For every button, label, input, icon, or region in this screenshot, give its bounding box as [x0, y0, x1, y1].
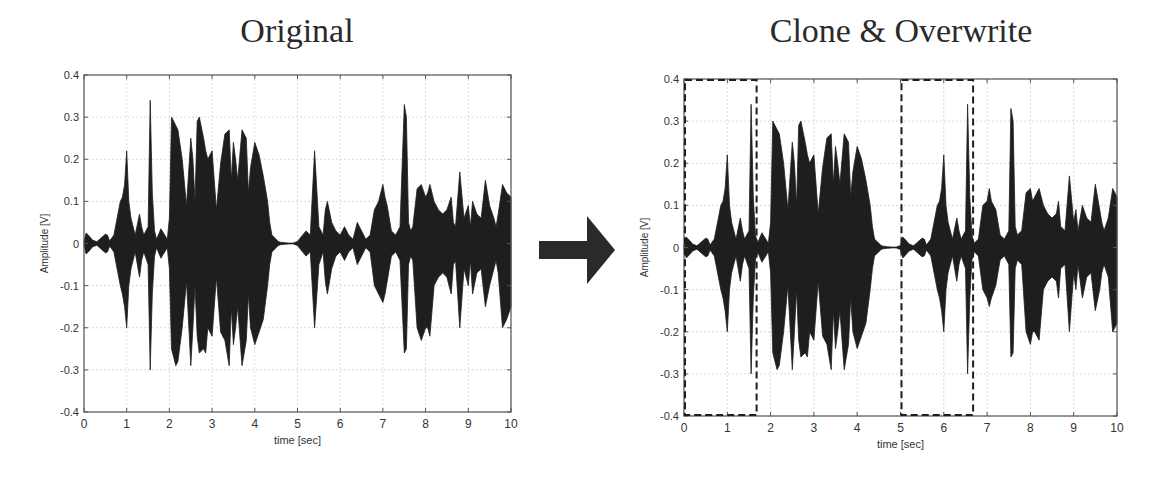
x-tick-label: 8: [1027, 421, 1034, 435]
y-tick-label: -0.1: [660, 284, 679, 296]
x-tick-label: 5: [897, 421, 904, 435]
y-tick-label: -0.2: [660, 326, 679, 338]
x-tick-label: 4: [854, 421, 861, 435]
y-tick-label: 0.2: [664, 157, 679, 169]
x-tick-label: 0: [681, 421, 688, 435]
x-tick-label: 2: [767, 421, 774, 435]
x-tick-label: 7: [984, 421, 991, 435]
x-tick-label: 6: [940, 421, 947, 435]
y-tick-label: 0.1: [664, 199, 679, 211]
plot-clone-overwrite: 0123456789100.40.30.20.10-0.1-0.2-0.3-0.…: [0, 0, 1158, 480]
y-tick-label: -0.4: [660, 410, 679, 422]
y-tick-label: -0.3: [660, 368, 679, 380]
x-tick-label: 3: [811, 421, 818, 435]
y-tick-label: 0.3: [664, 115, 679, 127]
x-tick-label: 1: [724, 421, 731, 435]
x-tick-label: 9: [1070, 421, 1077, 435]
x-tick-label: 10: [1110, 421, 1124, 435]
y-tick-label: 0.4: [664, 73, 679, 85]
x-axis-label: time [sec]: [877, 438, 924, 450]
y-tick-label: 0: [673, 242, 679, 254]
y-axis-label: Amplitude [V]: [639, 218, 650, 278]
